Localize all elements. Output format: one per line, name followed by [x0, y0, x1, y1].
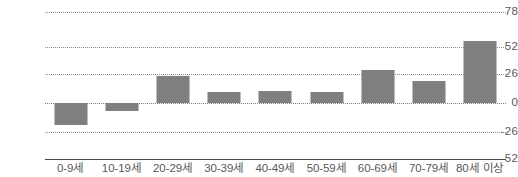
- bar-slot-0: [45, 0, 96, 160]
- bar-50-59[interactable]: [310, 92, 343, 103]
- plot-area: [45, 0, 506, 160]
- bar-20-29[interactable]: [156, 76, 189, 103]
- x-tick-label-10-19: 10-19세: [96, 161, 147, 175]
- x-tick-label-50-59: 50-59세: [301, 161, 352, 175]
- bar-slot-1: [96, 0, 147, 160]
- x-tick-label-70-79: 70-79세: [403, 161, 454, 175]
- bar-slot-5: [301, 0, 352, 160]
- bar-slot-4: [250, 0, 301, 160]
- x-tick-label-60-69: 60-69세: [352, 161, 403, 175]
- x-axis-labels: 0-9세 10-19세 20-29세 30-39세 40-49세 50-59세 …: [45, 161, 506, 177]
- x-tick-label-40-49: 40-49세: [250, 161, 301, 175]
- bar-40-49[interactable]: [259, 91, 292, 103]
- x-tick-label-80-plus: 80세 이상: [455, 161, 506, 175]
- bar-80-plus[interactable]: [464, 41, 497, 103]
- bar-10-19[interactable]: [105, 103, 138, 111]
- bar-0-9[interactable]: [54, 103, 87, 125]
- x-tick-label-0-9: 0-9세: [45, 161, 96, 175]
- bar-slot-7: [403, 0, 454, 160]
- bar-slot-3: [199, 0, 250, 160]
- bar-30-39[interactable]: [208, 92, 241, 103]
- bar-slot-8: [455, 0, 506, 160]
- bar-60-69[interactable]: [361, 70, 394, 103]
- bar-70-79[interactable]: [412, 81, 445, 103]
- x-tick-label-30-39: 30-39세: [199, 161, 250, 175]
- bar-chart: 78 52 26 0 -26 -52: [0, 0, 518, 177]
- x-tick-label-20-29: 20-29세: [147, 161, 198, 175]
- bar-slot-2: [147, 0, 198, 160]
- bar-slot-6: [352, 0, 403, 160]
- x-axis-line: [45, 159, 506, 160]
